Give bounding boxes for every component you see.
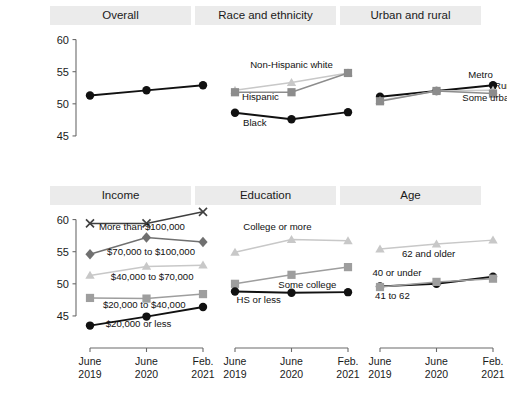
x-axis-tick-label: June bbox=[224, 355, 247, 367]
x-axis-tick-label: 2021 bbox=[481, 368, 505, 380]
y-axis-tick-label: 50 bbox=[57, 98, 69, 110]
panel-urban-and-rural: Urban and ruralMetroRuralSome urban bbox=[340, 6, 481, 176]
data-point bbox=[142, 232, 151, 242]
panel-race-and-ethnicity: Race and ethnicityNon-Hispanic whiteHisp… bbox=[195, 6, 336, 176]
y-axis-tick-label: 45 bbox=[57, 130, 69, 142]
data-point bbox=[85, 249, 94, 259]
panel-age: Age62 and older40 or under41 to 62June20… bbox=[340, 186, 481, 386]
x-axis-tick-label: 2019 bbox=[368, 368, 392, 380]
plot-area-education: College or moreSome collegeHS or lessJun… bbox=[195, 208, 362, 390]
y-axis-tick-label: 60 bbox=[57, 214, 69, 226]
data-point bbox=[432, 87, 440, 95]
x-axis-tick-label: June bbox=[280, 355, 303, 367]
x-axis-tick-label: 2019 bbox=[78, 368, 102, 380]
plot-area-race-and-ethnicity: Non-Hispanic whiteHispanicBlack bbox=[195, 28, 362, 178]
data-point bbox=[231, 109, 239, 117]
series-label: 40 or under bbox=[372, 267, 422, 278]
data-point bbox=[142, 86, 150, 94]
y-axis-tick-label: 55 bbox=[57, 246, 69, 258]
panel-overall: Overall45505560 bbox=[50, 6, 191, 176]
data-point bbox=[287, 88, 295, 96]
x-axis-tick-label: 2020 bbox=[135, 368, 159, 380]
panel-title-urban-and-rural: Urban and rural bbox=[340, 6, 481, 25]
panel-income: Income45505560More than $100,000$70,000 … bbox=[50, 186, 191, 386]
y-axis-tick-label: 50 bbox=[57, 278, 69, 290]
series-label: Some urban bbox=[462, 92, 507, 103]
x-axis-tick-label: June bbox=[369, 355, 392, 367]
x-axis-tick-label: 2020 bbox=[280, 368, 304, 380]
series-label: HS or less bbox=[237, 294, 281, 305]
plot-area-urban-and-rural: MetroRuralSome urban bbox=[340, 28, 507, 178]
plot-area-income: 45505560More than $100,000$70,000 to $10… bbox=[50, 208, 217, 390]
plot-area-overall: 45505560 bbox=[50, 28, 217, 178]
plot-area-age: 62 and older40 or under41 to 62June2019J… bbox=[340, 208, 507, 390]
x-axis-tick-label: 2020 bbox=[425, 368, 449, 380]
series-label: Some college bbox=[278, 279, 336, 290]
series-label: Non-Hispanic white bbox=[250, 59, 333, 70]
data-point bbox=[86, 294, 94, 302]
panel-title-overall: Overall bbox=[50, 6, 191, 25]
x-axis-tick-label: Feb. bbox=[482, 355, 503, 367]
series-college-or-more bbox=[230, 235, 352, 256]
y-axis-label-wrap: Financial well-being bbox=[8, 0, 26, 412]
series-label: College or more bbox=[243, 221, 311, 232]
data-point bbox=[489, 275, 497, 283]
data-point bbox=[488, 236, 497, 244]
x-axis-tick-label: June bbox=[425, 355, 448, 367]
series-label: $70,000 to $100,000 bbox=[107, 246, 195, 257]
x-axis-tick-label: June bbox=[79, 355, 102, 367]
data-point bbox=[287, 271, 295, 279]
data-point bbox=[86, 321, 94, 329]
data-point bbox=[287, 289, 295, 297]
series-overall bbox=[86, 81, 207, 100]
data-point bbox=[86, 91, 94, 99]
series-label: More than $100,000 bbox=[99, 221, 185, 232]
data-point bbox=[231, 280, 239, 288]
data-point bbox=[432, 278, 440, 286]
data-point bbox=[376, 97, 384, 105]
series-label: Metro bbox=[468, 69, 493, 80]
series-label: Hispanic bbox=[242, 91, 279, 102]
y-axis-tick-label: 45 bbox=[57, 310, 69, 322]
y-axis-label: Financial well-being bbox=[6, 0, 24, 18]
x-axis-tick-label: June bbox=[135, 355, 158, 367]
data-point bbox=[287, 115, 295, 123]
y-axis-tick-label: 60 bbox=[57, 34, 69, 46]
panel-title-income: Income bbox=[50, 186, 191, 205]
panel-title-education: Education bbox=[195, 186, 336, 205]
series-label: Rural bbox=[494, 80, 507, 91]
series-label: $40,000 to $70,000 bbox=[111, 271, 194, 282]
panel-education: EducationCollege or moreSome collegeHS o… bbox=[195, 186, 336, 386]
series-label: $20,000 or less bbox=[106, 318, 172, 329]
series-label: 41 to 62 bbox=[375, 290, 410, 301]
data-point bbox=[231, 88, 239, 96]
series-label: Black bbox=[243, 117, 267, 128]
series-label: $20,000 to $40,000 bbox=[103, 299, 186, 310]
series-label: 62 and older bbox=[402, 248, 456, 259]
panel-title-race-and-ethnicity: Race and ethnicity bbox=[195, 6, 336, 25]
panel-title-age: Age bbox=[340, 186, 481, 205]
x-axis-tick-label: 2019 bbox=[223, 368, 247, 380]
y-axis-tick-label: 55 bbox=[57, 66, 69, 78]
